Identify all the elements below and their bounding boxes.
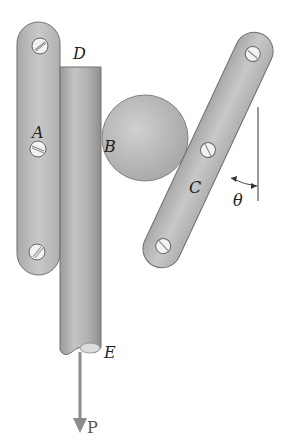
angle-arc [231, 176, 257, 189]
label-p: P [87, 418, 98, 437]
label-e: E [103, 343, 116, 362]
left-plate [17, 22, 60, 275]
screw-icon [30, 141, 46, 157]
label-d: D [72, 44, 86, 63]
screw-icon [32, 38, 48, 54]
rod [60, 67, 101, 355]
label-theta: θ [233, 191, 243, 210]
label-b: B [103, 137, 116, 156]
force-arrow [73, 352, 87, 433]
mechanism-diagram: D A B C θ E P [0, 0, 289, 446]
label-c: C [189, 178, 201, 197]
label-a: A [30, 123, 44, 142]
screw-icon [29, 244, 45, 260]
